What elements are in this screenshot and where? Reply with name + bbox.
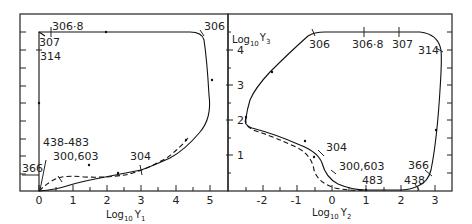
svg-text:4: 4: [237, 44, 244, 57]
left-x-axis-title: Log10Y1: [106, 209, 145, 223]
svg-text:2: 2: [398, 194, 405, 207]
label-300-603: 300,603: [339, 160, 385, 173]
label-307: 307: [392, 38, 413, 51]
svg-text:3: 3: [432, 194, 439, 207]
left-solid-curve: [39, 32, 210, 191]
label-314: 314: [418, 44, 439, 57]
right-y-ticks-left: [226, 32, 233, 173]
right-y-tick-labels: 4 3 2 1: [237, 44, 244, 162]
svg-text:0: 0: [329, 194, 336, 207]
label-483: 483: [362, 174, 383, 187]
label-306: 306: [204, 20, 225, 33]
svg-text:-1: -1: [291, 194, 302, 207]
label-306-8: 306·8: [52, 20, 84, 33]
svg-text:4: 4: [173, 194, 180, 207]
label-366: 366: [408, 159, 429, 172]
right-x-axis-title: Log10Y2: [312, 207, 351, 221]
phase-plot-figure: 0 1 2 3 4 5 Log10Y1: [0, 0, 472, 224]
label-306-8: 306·8: [352, 38, 384, 51]
svg-text:5: 5: [207, 194, 214, 207]
svg-text:1: 1: [70, 194, 77, 207]
right-x-tick-labels: -2 -1 0 1 2 3: [257, 194, 439, 207]
svg-text:3: 3: [237, 79, 244, 92]
svg-text:-2: -2: [257, 194, 268, 207]
left-x-tick-labels: 0 1 2 3 4 5: [36, 194, 214, 207]
label-306: 306: [309, 38, 330, 51]
label-304: 304: [326, 141, 347, 154]
svg-text:3: 3: [138, 194, 145, 207]
label-300-603: 300,603: [53, 150, 99, 163]
left-panel: 0 1 2 3 4 5 Log10Y1: [20, 14, 228, 223]
svg-text:2: 2: [104, 194, 111, 207]
left-y-ticks: [20, 32, 26, 174]
label-307: 307: [39, 36, 60, 49]
right-y-ticks-right: [447, 32, 452, 173]
label-438-483: 438-483: [43, 136, 89, 149]
svg-text:0: 0: [36, 194, 43, 207]
label-304: 304: [130, 150, 151, 163]
left-x-ticks: [39, 185, 210, 191]
label-366: 366: [22, 162, 43, 175]
svg-text:1: 1: [363, 194, 370, 207]
svg-text:1: 1: [237, 149, 244, 162]
right-dashed-curve: [246, 118, 364, 190]
label-314: 314: [40, 50, 61, 63]
right-panel: 4 3 2 1 Log10Y3 -2 -1 0 1 2: [226, 14, 452, 221]
svg-text:2: 2: [237, 114, 244, 127]
label-438: 438: [404, 174, 425, 187]
